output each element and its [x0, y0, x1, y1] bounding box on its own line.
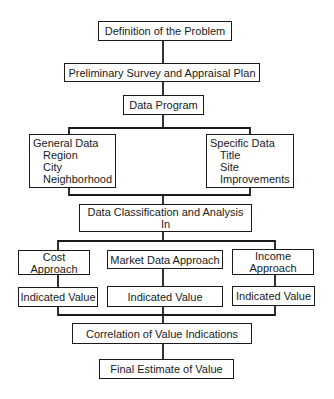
- node-general-data: General Data Region City Neighborhood: [29, 134, 116, 188]
- node-label: Preliminary Survey and Appraisal Plan: [68, 67, 255, 79]
- node-label-line2: Approach: [249, 262, 296, 274]
- node-item-region: Region: [33, 149, 78, 161]
- node-definition-of-problem: Definition of the Problem: [98, 21, 232, 41]
- node-label: Correlation of Value Indications: [86, 328, 238, 340]
- node-label: Indicated Value: [127, 291, 202, 303]
- node-label: Indicated Value: [236, 290, 311, 302]
- node-label: Data Program: [129, 99, 197, 111]
- node-income-indicated-value: Indicated Value: [232, 286, 315, 306]
- node-item-city: City: [33, 161, 62, 173]
- node-preliminary-survey: Preliminary Survey and Appraisal Plan: [64, 63, 260, 82]
- node-specific-data: Specific Data Title Site Improvements: [206, 134, 294, 188]
- node-label: Final Estimate of Value: [110, 363, 222, 375]
- node-label: Specific Data: [210, 137, 275, 149]
- node-data-program: Data Program: [123, 95, 204, 115]
- node-market-data-approach: Market Data Approach: [107, 250, 223, 269]
- node-market-indicated-value: Indicated Value: [107, 286, 223, 307]
- node-item-improvements: Improvements: [210, 173, 290, 185]
- node-data-classification: Data Classification and Analysis In: [79, 204, 252, 232]
- node-label-line1: Income: [255, 250, 291, 262]
- node-label: Indicated Value: [20, 291, 95, 303]
- node-item-title: Title: [210, 149, 240, 161]
- node-label-line2: Approach: [30, 263, 77, 275]
- node-correlation: Correlation of Value Indications: [72, 323, 252, 344]
- node-label-line1: Data Classification and Analysis: [88, 206, 244, 218]
- node-label: Definition of the Problem: [105, 25, 225, 37]
- node-label: Market Data Approach: [110, 254, 219, 266]
- node-label: General Data: [33, 137, 98, 149]
- node-final-estimate: Final Estimate of Value: [99, 359, 234, 379]
- node-label-line1: Cost: [43, 251, 66, 263]
- node-item-site: Site: [210, 161, 239, 173]
- node-income-approach: Income Approach: [232, 249, 314, 275]
- node-item-neighborhood: Neighborhood: [33, 173, 112, 185]
- node-cost-approach: Cost Approach: [18, 250, 90, 275]
- node-label-line2: In: [161, 218, 170, 230]
- node-cost-indicated-value: Indicated Value: [18, 287, 98, 307]
